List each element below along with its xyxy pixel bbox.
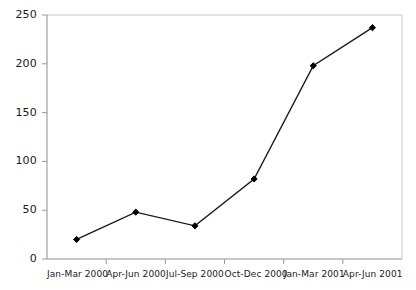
x-tick-label: Oct-Dec 2000 — [225, 269, 284, 279]
x-tick-label: Apr-Jun 2001 — [343, 269, 402, 279]
data-point-marker — [73, 236, 79, 242]
x-axis-ticks — [106, 259, 343, 264]
y-tick-label: 50 — [0, 203, 37, 216]
data-point-marker — [133, 209, 139, 215]
y-tick-label: 150 — [0, 106, 37, 119]
data-series-line — [77, 28, 373, 240]
y-tick-label: 0 — [0, 252, 37, 265]
x-tick-label: Apr-Jun 2000 — [106, 269, 165, 279]
y-tick-label: 250 — [0, 8, 37, 21]
y-tick-label: 200 — [0, 57, 37, 70]
y-tick-label: 100 — [0, 154, 37, 167]
x-tick-label: Jul-Sep 2000 — [165, 269, 224, 279]
y-axis-ticks — [42, 15, 47, 259]
line-chart: 050100150200250 Jan-Mar 2000Apr-Jun 2000… — [0, 0, 416, 290]
chart-plot-area — [0, 0, 416, 290]
x-tick-label: Jan-Mar 2000 — [47, 269, 106, 279]
x-tick-label: Jan-Mar 2001 — [284, 269, 343, 279]
data-point-markers — [73, 25, 375, 243]
